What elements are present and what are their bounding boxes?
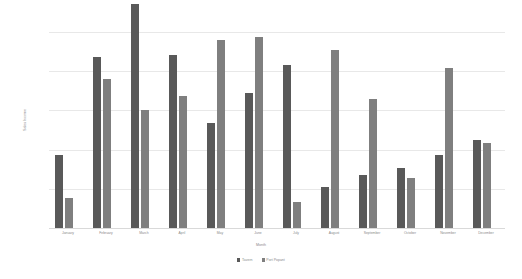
x-axis-tick-label: November [429,231,467,235]
bar [483,143,491,228]
bar [179,96,187,228]
bar [217,40,225,228]
bar-chart: 0.002,000.004,000.006,000.008,000.0010,0… [0,0,522,279]
bar [407,178,415,228]
plot-bars [49,32,505,228]
bar [331,50,339,228]
gridline [49,228,505,229]
bar [293,202,301,228]
bar-group [201,32,239,228]
bar [93,57,101,228]
chart-legend: TavernPort Popant [0,258,522,262]
x-axis-tick-label: March [125,231,163,235]
bar-group [163,32,201,228]
bar [321,187,329,228]
legend-item[interactable]: Port Popant [262,258,285,262]
x-axis-labels: JanuaryFebruaryMarchAprilMayJuneJulyAugu… [49,231,505,241]
bar [359,175,367,228]
bar [207,123,215,228]
x-axis-tick-label: February [87,231,125,235]
x-axis-tick-label: December [467,231,505,235]
bar [65,198,73,228]
x-axis-tick-label: January [49,231,87,235]
x-axis-tick-label: May [201,231,239,235]
bar [435,155,443,228]
legend-swatch-icon [237,258,240,261]
x-axis-tick-label: July [277,231,315,235]
x-axis-title: Month [0,243,522,247]
bar [131,4,139,228]
bar [141,110,149,228]
bar [283,65,291,228]
bar-group [315,32,353,228]
legend-label: Port Popant [266,258,284,262]
x-axis-tick-label: September [353,231,391,235]
bar-group [49,32,87,228]
bar-group [277,32,315,228]
legend-swatch-icon [262,258,265,261]
bar [369,99,377,228]
bar [255,37,263,228]
bar [397,168,405,228]
bar-group [353,32,391,228]
bar-group [125,32,163,228]
legend-item[interactable]: Tavern [237,258,252,262]
legend-label: Tavern [242,258,253,262]
bar-group [467,32,505,228]
bar-group [239,32,277,228]
bar-group [429,32,467,228]
bar [245,93,253,228]
x-axis-tick-label: October [391,231,429,235]
bar-group [87,32,125,228]
bar [169,55,177,228]
bar [473,140,481,228]
bar-group [391,32,429,228]
bar [55,155,63,229]
bar [103,79,111,228]
bar [445,68,453,228]
x-axis-tick-label: June [239,231,277,235]
y-axis-title: Sales Income [23,90,27,150]
x-axis-tick-label: April [163,231,201,235]
x-axis-tick-label: August [315,231,353,235]
